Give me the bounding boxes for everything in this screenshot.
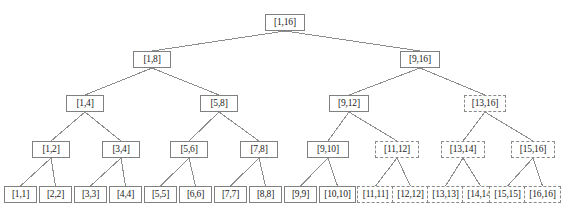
tree-node-label: [13,14] [450,145,476,155]
tree-node-range-9-10: [9,10] [307,141,349,158]
tree-node-range-11-11: [11,11] [357,186,394,203]
segment-tree-figure: [1,16][1,8][9,16][1,4][5,8][9,12][13,16]… [0,0,563,209]
tree-node-range-3-3: [3,3] [74,186,107,203]
tree-node-label: [9,12] [338,99,360,109]
tree-node-range-9-12: [9,12] [329,95,369,112]
tree-node-label: [7,7] [222,190,239,200]
tree-node-label: [7,8] [250,145,267,155]
tree-node-range-10-10: [10,10] [319,186,356,203]
tree-node-range-15-15: [15,15] [489,186,526,203]
tree-node-range-7-8: [7,8] [240,141,278,158]
tree-node-range-1-16: [1,16] [265,14,305,31]
tree-node-range-7-7: [7,7] [214,186,247,203]
tree-node-range-5-5: [5,5] [144,186,177,203]
tree-node-label: [4,4] [117,190,134,200]
tree-node-label: [9,16] [409,55,431,65]
tree-node-label: [1,16] [274,18,296,28]
tree-node-label: [3,4] [112,145,129,155]
tree-node-range-1-8: [1,8] [133,51,171,68]
tree-node-range-13-14: [13,14] [441,141,485,158]
tree-node-label: [9,9] [292,190,309,200]
tree-node-label: [11,12] [384,145,410,155]
tree-node-range-9-16: [9,16] [400,51,440,68]
tree-node-label: [1,1] [12,190,29,200]
tree-node-range-2-2: [2,2] [39,186,72,203]
tree-node-range-12-12: [12,12] [392,186,429,203]
tree-node-range-1-2: [1,2] [32,141,70,158]
tree-node-label: [5,8] [210,99,227,109]
tree-node-label: [10,10] [324,190,350,200]
tree-node-range-15-16: [15,16] [511,141,555,158]
tree-node-label: [9,10] [317,145,339,155]
tree-node-label: [12,12] [397,190,423,200]
tree-node-label: [13,13] [432,190,458,200]
tree-node-label: [11,11] [363,190,389,200]
tree-node-label: [15,15] [494,190,520,200]
tree-node-label: [3,3] [82,190,99,200]
tree-node-label: [15,16] [520,145,546,155]
tree-node-layer: [1,16][1,8][9,16][1,4][5,8][9,12][13,16]… [0,0,563,209]
tree-node-range-13-13: [13,13] [427,186,464,203]
tree-node-label: [5,6] [180,145,197,155]
tree-node-label: [6,6] [187,190,204,200]
tree-node-range-4-4: [4,4] [109,186,142,203]
tree-node-label: [16,16] [529,190,555,200]
tree-node-label: [13,16] [472,99,498,109]
tree-node-label: [1,4] [76,99,93,109]
tree-node-range-5-8: [5,8] [200,95,238,112]
tree-node-range-11-12: [11,12] [375,141,419,158]
tree-node-label: [1,8] [143,55,160,65]
tree-node-range-1-1: [1,1] [4,186,37,203]
tree-node-label: [2,2] [47,190,64,200]
tree-node-range-13-16: [13,16] [464,95,506,112]
tree-node-range-5-6: [5,6] [170,141,208,158]
tree-node-label: [1,2] [42,145,59,155]
tree-node-range-8-8: [8,8] [249,186,282,203]
tree-node-label: [5,5] [152,190,169,200]
tree-node-range-16-16: [16,16] [524,186,561,203]
tree-node-range-3-4: [3,4] [102,141,140,158]
tree-node-range-9-9: [9,9] [284,186,317,203]
tree-node-range-6-6: [6,6] [179,186,212,203]
tree-node-range-1-4: [1,4] [66,95,104,112]
tree-node-label: [8,8] [257,190,274,200]
